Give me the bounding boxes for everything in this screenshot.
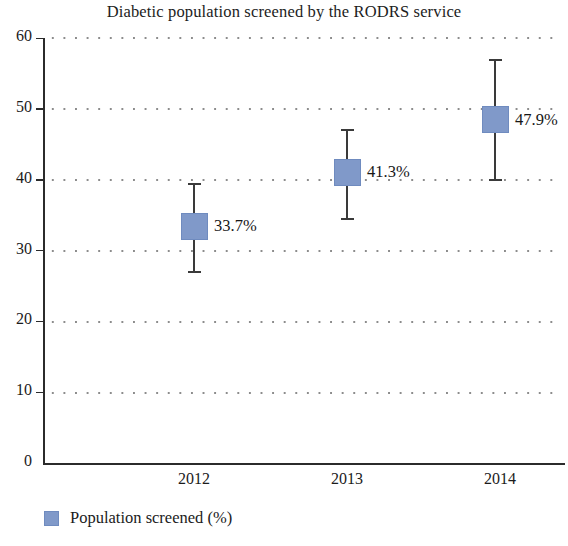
x-tick-label-2014: 2014 xyxy=(440,470,560,488)
gridline-40 xyxy=(47,179,561,181)
y-tick-label-0: 0 xyxy=(0,452,32,470)
errorbar-cap-low-2013 xyxy=(341,218,354,220)
x-tick-label-2013: 2013 xyxy=(287,470,407,488)
data-label-2014: 47.9% xyxy=(515,110,558,130)
marker-square-2013[interactable] xyxy=(334,159,361,186)
data-label-2012: 33.7% xyxy=(214,216,257,236)
y-tick-label-10: 10 xyxy=(0,381,32,399)
errorbar-cap-high-2014 xyxy=(489,59,502,61)
y-tick-mark-30 xyxy=(36,250,44,251)
plot-area: 60 50 40 30 20 10 0 2012 2013 2014 33.7%… xyxy=(0,0,568,500)
y-tick-mark-20 xyxy=(36,321,44,322)
marker-square-2014[interactable] xyxy=(482,106,509,133)
data-label-2013: 41.3% xyxy=(367,162,410,182)
x-tick-label-2012: 2012 xyxy=(134,470,254,488)
y-tick-label-30: 30 xyxy=(0,240,32,258)
y-tick-label-60: 60 xyxy=(0,27,32,45)
y-tick-label-40: 40 xyxy=(0,169,32,187)
errorbar-cap-low-2014 xyxy=(489,179,502,181)
y-tick-label-20: 20 xyxy=(0,310,32,328)
errorbar-cap-high-2012 xyxy=(188,183,201,185)
chart-legend: Population screened (%) xyxy=(44,508,232,528)
legend-swatch-icon xyxy=(44,511,59,526)
chart-figure: Diabetic population screened by the RODR… xyxy=(0,0,568,546)
y-tick-label-50: 50 xyxy=(0,98,32,116)
x-axis-line xyxy=(43,463,565,465)
y-tick-mark-10 xyxy=(36,392,44,393)
y-tick-mark-40 xyxy=(36,179,44,180)
gridline-20 xyxy=(47,321,561,323)
errorbar-cap-high-2013 xyxy=(341,129,354,131)
gridline-10 xyxy=(47,392,561,394)
gridline-60 xyxy=(47,37,561,39)
errorbar-cap-low-2012 xyxy=(188,271,201,273)
marker-square-2012[interactable] xyxy=(181,213,208,240)
legend-label-population-screened: Population screened (%) xyxy=(70,508,232,528)
y-tick-mark-50 xyxy=(36,108,44,109)
y-tick-mark-60 xyxy=(36,38,44,39)
gridline-30 xyxy=(47,250,561,252)
